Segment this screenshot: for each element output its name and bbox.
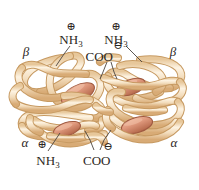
minus-charge-icon-bottom: ⊖ (103, 140, 112, 152)
nh-subscript: 3 (123, 39, 128, 49)
hemoglobin-figure: β β α α ⊕ NH3 ⊕ NH3 ⊖ COO ⊕ NH3 ⊖ COO (0, 0, 199, 190)
plus-charge-icon-top-left: ⊕ (66, 20, 75, 32)
nh-subscript: 3 (78, 39, 83, 49)
carboxyl-terminus-label-top: COO (86, 49, 113, 64)
nh-text: NH (59, 32, 78, 47)
hemoglobin-diagram-svg: β β α α ⊕ NH3 ⊕ NH3 ⊖ COO ⊕ NH3 ⊖ COO (0, 0, 199, 190)
plus-charge-icon-top-right: ⊕ (111, 20, 120, 32)
nh-subscript: 3 (55, 160, 60, 170)
subunit-label-beta-top-right: β (169, 44, 177, 59)
carboxyl-terminus-label-bottom: COO (83, 153, 110, 168)
subunit-label-alpha-bottom-right: α (171, 135, 179, 150)
minus-charge-icon-top: ⊖ (113, 39, 122, 51)
nh-text: NH (36, 153, 55, 168)
subunit-label-beta-top-left: β (22, 44, 30, 59)
subunit-label-alpha-bottom-left: α (22, 135, 30, 150)
plus-charge-icon-bottom-left: ⊕ (37, 138, 46, 150)
